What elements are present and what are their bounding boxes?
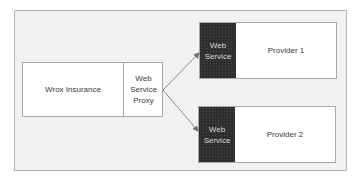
arrow-to-provider-1 — [163, 53, 199, 90]
connection-arrows — [0, 0, 363, 181]
arrow-to-provider-2 — [163, 90, 198, 131]
